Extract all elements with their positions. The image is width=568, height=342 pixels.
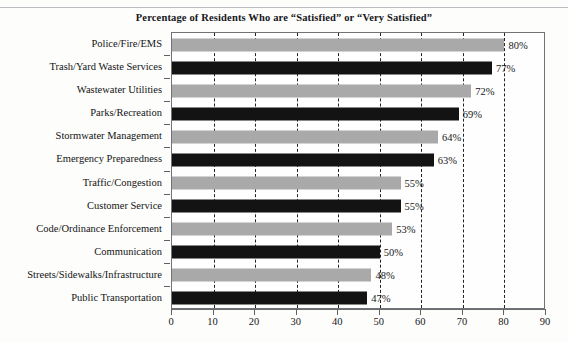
bar <box>172 246 380 259</box>
category-label: Emergency Preparedness <box>56 147 162 170</box>
category-label: Wastewater Utilities <box>77 78 162 101</box>
bar-value-label: 47% <box>367 293 390 304</box>
bar-value-label: 50% <box>380 247 403 258</box>
x-tick-label: 30 <box>290 316 301 327</box>
category-label: Code/Ordinance Enforcement <box>36 217 162 240</box>
x-tick-label: 80 <box>498 316 509 327</box>
chart-title: Percentage of Residents Who are “Satisfi… <box>0 12 568 23</box>
bar <box>172 177 401 190</box>
chart-page: Percentage of Residents Who are “Satisfi… <box>0 0 568 342</box>
bar-row: 48% <box>172 264 544 287</box>
x-tick-label: 0 <box>168 316 173 327</box>
bar-value-label: 64% <box>438 131 461 142</box>
category-label: Public Transportation <box>71 286 162 309</box>
category-label: Police/Fire/EMS <box>91 32 162 55</box>
bar-value-label: 80% <box>504 39 527 50</box>
x-tick-label: 60 <box>415 316 426 327</box>
bar-row: 80% <box>172 33 544 56</box>
bar <box>172 107 459 120</box>
category-label: Stormwater Management <box>56 124 162 147</box>
bar-row: 69% <box>172 102 544 125</box>
category-label: Traffic/Congestion <box>83 171 162 194</box>
bar-row: 63% <box>172 148 544 171</box>
bar-row: 47% <box>172 287 544 310</box>
category-label: Customer Service <box>87 194 162 217</box>
bar-value-label: 77% <box>492 62 515 73</box>
x-tick-90 <box>545 309 546 315</box>
x-tick-70 <box>462 309 463 315</box>
x-axis-line <box>171 309 545 310</box>
x-tick-60 <box>420 309 421 315</box>
category-axis: Police/Fire/EMSTrash/Yard Waste Services… <box>0 32 167 309</box>
bar-row: 55% <box>172 172 544 195</box>
bar-row: 50% <box>172 241 544 264</box>
bar-value-label: 72% <box>471 85 494 96</box>
bar-row: 55% <box>172 195 544 218</box>
x-tick-label: 40 <box>332 316 343 327</box>
category-tick <box>164 124 170 125</box>
bar-value-label: 55% <box>401 201 424 212</box>
category-tick <box>164 286 170 287</box>
bar <box>172 223 392 236</box>
x-tick-label: 10 <box>207 316 218 327</box>
bar <box>172 269 371 282</box>
category-label: Parks/Recreation <box>90 101 162 124</box>
plot-area: 80%77%72%69%64%63%55%55%53%50%48%47% <box>171 32 545 309</box>
x-tick-0 <box>171 309 172 315</box>
bar <box>172 84 471 97</box>
category-tick <box>164 263 170 264</box>
x-tick-10 <box>213 309 214 315</box>
x-tick-40 <box>337 309 338 315</box>
bar <box>172 130 438 143</box>
bar <box>172 153 434 166</box>
category-label: Trash/Yard Waste Services <box>50 55 162 78</box>
category-tick <box>164 217 170 218</box>
category-tick <box>164 101 170 102</box>
x-tick-label: 90 <box>540 316 551 327</box>
category-tick <box>164 171 170 172</box>
page-top-rule <box>0 7 568 8</box>
bar-value-label: 69% <box>459 108 482 119</box>
category-tick <box>164 78 170 79</box>
x-tick-30 <box>296 309 297 315</box>
bar <box>172 292 367 305</box>
bar-value-label: 55% <box>401 178 424 189</box>
x-tick-20 <box>254 309 255 315</box>
bar-row: 77% <box>172 56 544 79</box>
category-tick <box>164 147 170 148</box>
bar-series: 80%77%72%69%64%63%55%55%53%50%48%47% <box>172 33 544 308</box>
category-label: Streets/Sidewalks/Infrastructure <box>27 263 162 286</box>
bar-row: 72% <box>172 79 544 102</box>
bar <box>172 200 401 213</box>
bar-value-label: 53% <box>392 224 415 235</box>
bar-value-label: 48% <box>371 270 394 281</box>
x-tick-label: 20 <box>249 316 260 327</box>
x-tick-label: 50 <box>374 316 385 327</box>
category-tick <box>164 194 170 195</box>
category-tick <box>164 55 170 56</box>
x-tick-80 <box>503 309 504 315</box>
bar-value-label: 63% <box>434 154 457 165</box>
bar <box>172 38 504 51</box>
category-tick <box>164 240 170 241</box>
bar <box>172 61 492 74</box>
bar-row: 53% <box>172 218 544 241</box>
x-tick-50 <box>379 309 380 315</box>
bar-row: 64% <box>172 125 544 148</box>
x-tick-label: 70 <box>457 316 468 327</box>
category-label: Communication <box>94 240 162 263</box>
